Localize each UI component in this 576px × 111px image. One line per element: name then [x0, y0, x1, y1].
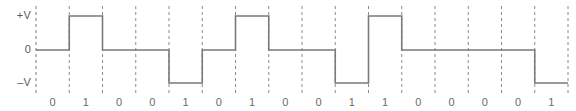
bit-label: 0: [302, 97, 335, 108]
bit-label: 1: [169, 97, 202, 108]
bit-label: 0: [502, 97, 535, 108]
bit-label: 1: [369, 97, 402, 108]
bit-label: 0: [435, 97, 468, 108]
waveform-plot: [0, 0, 576, 111]
bit-label: 1: [535, 97, 568, 108]
bit-label: 0: [103, 97, 136, 108]
bit-label: 0: [136, 97, 169, 108]
axis-label-zero-voltage: 0: [25, 44, 31, 55]
axis-label-positive-voltage: +V: [17, 10, 31, 21]
bit-label: 1: [69, 97, 102, 108]
bit-label: 0: [36, 97, 69, 108]
bit-label: 1: [335, 97, 368, 108]
bit-label: 0: [468, 97, 501, 108]
bit-label: 0: [269, 97, 302, 108]
bit-label: 0: [202, 97, 235, 108]
bit-label: 1: [236, 97, 269, 108]
bit-label: 0: [402, 97, 435, 108]
axis-label-negative-voltage: –V: [17, 77, 31, 88]
waveform-figure: +V 0 –V 0100101001100001: [0, 0, 576, 111]
